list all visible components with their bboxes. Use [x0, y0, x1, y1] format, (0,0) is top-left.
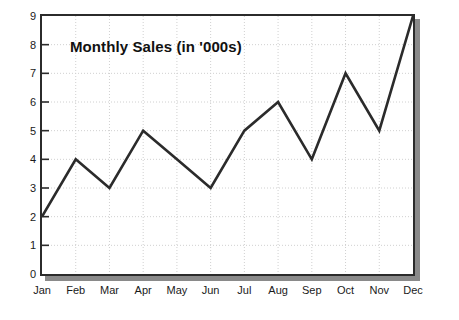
x-axis-tick-label: Feb	[66, 285, 85, 296]
x-axis-tick-label: Nov	[369, 285, 389, 296]
x-axis-tick-label: Sep	[302, 285, 322, 296]
x-axis-tick-label: May	[167, 285, 188, 296]
x-axis-tick-label: Apr	[135, 285, 152, 296]
x-axis-tick-label: Jan	[33, 285, 51, 296]
chart-title: Monthly Sales (in '000s)	[70, 38, 242, 55]
x-axis-tick-label: Dec	[403, 285, 423, 296]
line-chart: 0123456789 JanFebMarAprMayJunJulAugSepOc…	[0, 0, 459, 320]
x-axis-tick-label: Mar	[100, 285, 119, 296]
x-axis-tick-label: Jul	[237, 285, 251, 296]
x-axis-tick-label: Aug	[268, 285, 288, 296]
x-axis-tick-label: Oct	[337, 285, 354, 296]
x-axis-tick-label: Jun	[202, 285, 220, 296]
